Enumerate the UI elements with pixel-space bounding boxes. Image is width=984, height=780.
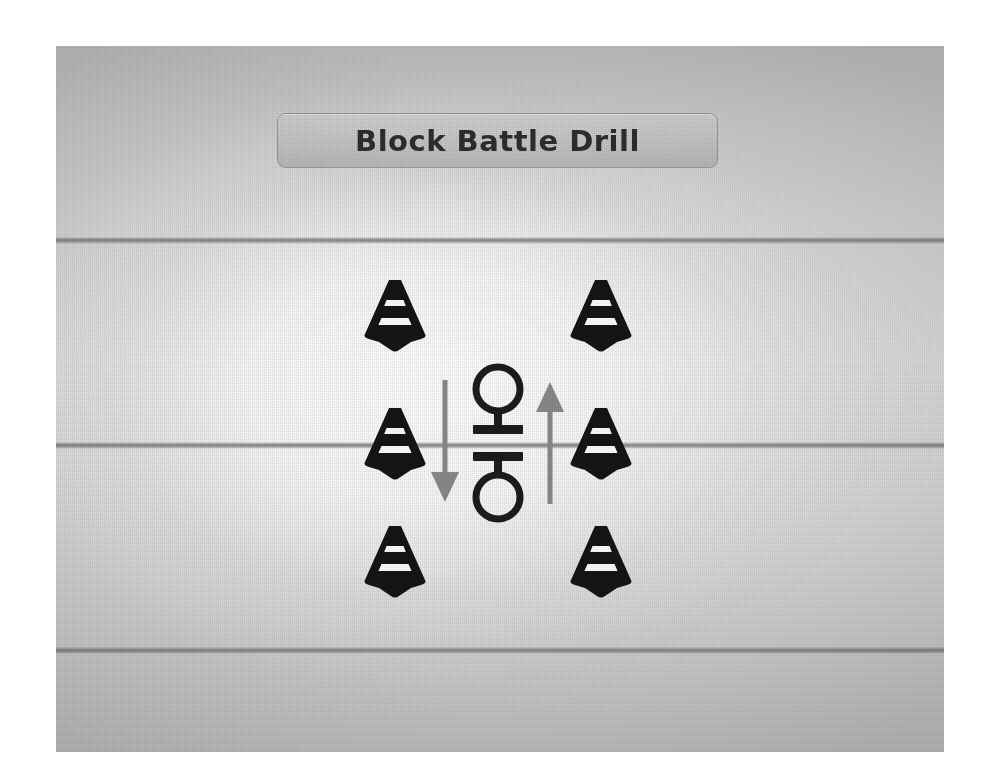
player-bottom	[465, 441, 531, 525]
cone-top-right	[565, 276, 637, 352]
drill-diagram-page: Block Battle Drill	[0, 0, 984, 780]
markers-layer	[56, 46, 944, 752]
arrow-down-left	[428, 380, 462, 504]
cone-middle-right	[565, 404, 637, 480]
cone-bottom-right	[565, 522, 637, 598]
cone-top-left	[359, 276, 431, 352]
drill-field-canvas: Block Battle Drill	[56, 46, 944, 752]
arrow-up-right	[533, 380, 567, 504]
cone-middle-left	[359, 404, 431, 480]
cone-bottom-left	[359, 522, 431, 598]
player-top	[465, 361, 531, 445]
